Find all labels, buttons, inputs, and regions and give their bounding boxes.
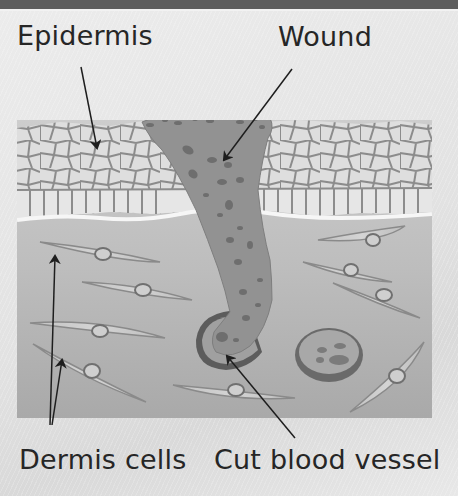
blood-vessel [295,328,363,382]
skin-diagram [0,0,458,496]
cut-blood-vessel-label: Cut blood vessel [214,446,441,473]
dermis-cells-label: Dermis cells [19,446,186,473]
epidermis-label: Epidermis [17,22,153,49]
wound-label: Wound [278,23,372,50]
